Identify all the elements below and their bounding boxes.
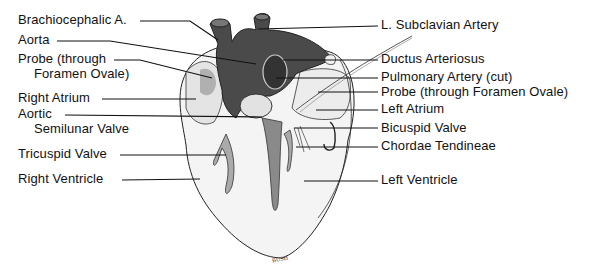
label-aortic-line2: Semilunar Valve (34, 122, 129, 136)
left-atrium-shape (292, 69, 351, 120)
label-right-ventricle: Right Ventricle (18, 172, 103, 186)
label-aorta: Aorta (18, 33, 50, 47)
label-right-atrium: Right Atrium (18, 91, 90, 105)
label-left-ventricle: Left Ventricle (381, 173, 458, 187)
label-tricuspid-valve: Tricuspid Valve (18, 147, 107, 161)
aortic-valve (240, 94, 272, 118)
label-probe-left-line1: Probe (through (18, 52, 106, 66)
label-aortic-line1: Aortic (18, 107, 52, 121)
label-left-subclavian-artery: L. Subclavian Artery (381, 18, 499, 32)
label-ductus-arteriosus: Ductus Arteriosus (381, 52, 485, 66)
heart-diagram: Brachiocephalic A. Aorta Probe (through … (0, 0, 592, 270)
subclavian-opening (255, 14, 269, 20)
label-probe-right: Probe (through Foramen Ovale) (381, 85, 568, 99)
brachiocephalic-opening (211, 19, 229, 27)
label-chordae-tendineae: Chordae Tendineae (381, 139, 496, 153)
label-left-atrium: Left Atrium (381, 102, 444, 116)
label-probe-left-line2: Foramen Ovale) (34, 67, 129, 81)
label-brachiocephalic-artery: Brachiocephalic A. (18, 13, 127, 27)
label-pulmonary-artery: Pulmonary Artery (cut) (381, 70, 513, 84)
label-bicuspid-valve: Bicuspid Valve (381, 121, 467, 135)
